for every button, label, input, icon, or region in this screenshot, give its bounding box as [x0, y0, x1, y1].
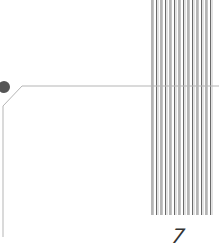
vertical-bus-lines: [152, 0, 212, 215]
connector-line: [3, 86, 219, 237]
node-dot: [0, 81, 10, 93]
diagram-canvas: [0, 0, 219, 243]
page-label: 7: [171, 226, 187, 243]
